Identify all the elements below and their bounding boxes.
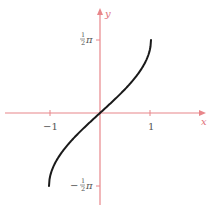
svg-text:−: − xyxy=(70,180,78,191)
x-tick-label-neg1: −1 xyxy=(43,121,58,132)
svg-text:π: π xyxy=(85,180,93,191)
svg-text:2: 2 xyxy=(81,39,85,47)
y-tick-label-neg-half-pi: − 1 2 π xyxy=(70,177,93,193)
y-axis-label: y xyxy=(104,8,111,19)
x-tick-label-1: 1 xyxy=(148,121,154,132)
svg-text:π: π xyxy=(85,34,93,45)
svg-text:1: 1 xyxy=(81,177,85,185)
svg-text:2: 2 xyxy=(81,185,85,193)
arcsin-plot: x y −1 1 1 2 π − 1 2 π xyxy=(0,0,216,210)
x-axis-label: x xyxy=(201,116,207,127)
svg-text:1: 1 xyxy=(81,31,85,39)
y-tick-label-half-pi: 1 2 π xyxy=(80,31,93,47)
y-axis-arrow-icon xyxy=(97,8,103,15)
